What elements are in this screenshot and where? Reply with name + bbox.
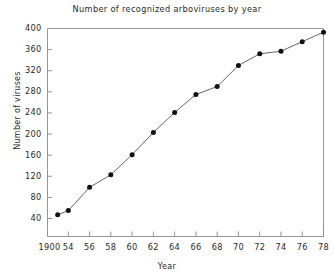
axis-lines <box>48 29 324 237</box>
axis-tick-marks <box>48 50 324 237</box>
data-line <box>58 32 324 215</box>
chart-figure: Number of recognized arboviruses by year… <box>0 0 334 280</box>
data-point-markers <box>55 30 326 218</box>
plot-area <box>0 0 334 280</box>
